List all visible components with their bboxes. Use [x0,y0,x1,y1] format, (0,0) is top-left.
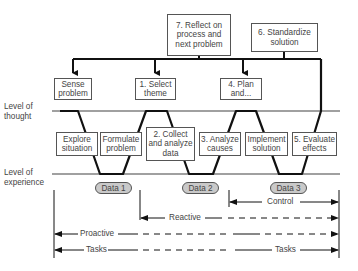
sense-problem-box: Sense problem [54,78,92,100]
reflect-box: 7. Reflect on process and next problem [167,14,231,56]
implement-solution-box: Implement solution [245,132,288,156]
data-1-node: Data 1 [95,182,132,194]
explore-situation-box: Explore situation [56,132,98,156]
evaluate-effects-box: 5. Evaluate effects [292,132,337,156]
tasks-right-label: Tasks [274,245,297,255]
control-label: Control [266,197,294,207]
reactive-label: Reactive [168,213,202,223]
collect-data-box: 2. Collect and analyze data [146,127,195,161]
select-theme-box: 1. Select theme [135,78,176,100]
level-of-experience-label: Level of experience [4,168,44,187]
plan-box: 4. Plan and... [220,78,262,100]
tasks-left-label: Tasks [85,245,108,255]
standardize-box: 6. Standardize solution [251,23,318,52]
analyze-causes-box: 3. Analyze causes [199,132,241,156]
data-3-node: Data 3 [270,182,307,194]
formulate-problem-box: Formulate problem [100,132,142,156]
data-2-node: Data 2 [182,182,219,194]
proactive-label: Proactive [79,229,115,239]
level-of-thought-label: Level of thought [4,102,33,121]
